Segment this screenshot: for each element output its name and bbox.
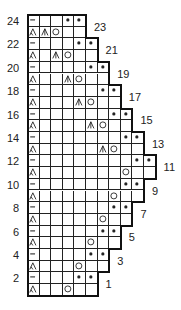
chart-cell: [28, 226, 40, 238]
left-decrease-symbol: [28, 261, 39, 272]
chart-outline: [131, 201, 145, 203]
yarn-over-symbol: [86, 97, 97, 108]
left-decrease-symbol: [28, 237, 39, 248]
chart-outline: [131, 131, 145, 133]
left-decrease-symbol: [28, 74, 39, 85]
chart-cell: [86, 155, 98, 167]
chart-cell: [63, 97, 75, 109]
dot-symbol: [86, 62, 97, 73]
chart-cell: [63, 62, 75, 74]
chart-cell: [40, 109, 52, 121]
chart-cell: [28, 38, 40, 50]
chart-cell: [51, 226, 63, 238]
chart-cell: [86, 249, 98, 261]
chart-cell: [28, 179, 40, 191]
chart-cell: [63, 15, 75, 27]
chart-cell: [63, 144, 75, 156]
chart-cell: [51, 74, 63, 86]
chart-cell: [74, 38, 86, 50]
dash-symbol: [28, 179, 39, 190]
chart-cell: [86, 214, 98, 226]
left-decrease-symbol: [28, 120, 39, 131]
chart-cell: [63, 226, 75, 238]
row-number-label: 16: [7, 110, 19, 121]
row-number-label: 22: [7, 39, 19, 50]
dot-symbol: [98, 62, 109, 73]
center-decrease-symbol: [51, 50, 62, 61]
chart-outline: [97, 61, 111, 63]
chart-cell: [51, 249, 63, 261]
chart-cell: [63, 249, 75, 261]
chart-cell: [74, 237, 86, 249]
chart-cell: [51, 202, 63, 214]
chart-outline: [120, 108, 134, 110]
chart-cell: [51, 38, 63, 50]
chart-cell: [40, 179, 52, 191]
chart-cell: [40, 27, 52, 39]
yarn-over-symbol: [51, 27, 62, 38]
center-decrease-symbol: [40, 27, 51, 38]
chart-cell: [86, 62, 98, 74]
chart-cell: [40, 144, 52, 156]
chart-cell: [28, 50, 40, 62]
chart-cell: [74, 50, 86, 62]
chart-cell: [40, 62, 52, 74]
chart-cell: [40, 15, 52, 27]
dash-symbol: [28, 249, 39, 260]
chart-cell: [74, 74, 86, 86]
chart-cell: [51, 132, 63, 144]
chart-cell: [63, 120, 75, 132]
chart-cell: [63, 38, 75, 50]
chart-cell: [63, 50, 75, 62]
chart-cell: [63, 272, 75, 284]
chart-cell: [98, 179, 110, 191]
chart-cell: [98, 109, 110, 121]
chart-cell: [28, 144, 40, 156]
chart-cell: [51, 27, 63, 39]
chart-cell: [109, 155, 121, 167]
left-decrease-symbol: [28, 191, 39, 202]
dot-symbol: [63, 15, 74, 26]
row-number-label: 3: [117, 256, 123, 267]
chart-cell: [51, 272, 63, 284]
chart-outline: [97, 271, 111, 273]
chart-cell: [86, 109, 98, 121]
row-number-label: 8: [13, 203, 19, 214]
chart-cell: [28, 27, 40, 39]
chart-cell: [109, 167, 121, 179]
dash-symbol: [28, 272, 39, 283]
chart-cell: [63, 261, 75, 273]
dot-symbol: [121, 179, 132, 190]
row-number-label: 1: [106, 279, 112, 290]
chart-cell: [51, 214, 63, 226]
chart-cell: [121, 179, 133, 191]
chart-cell: [51, 97, 63, 109]
chart-cell: [74, 155, 86, 167]
chart-cell: [74, 85, 86, 97]
yarn-over-symbol: [74, 74, 85, 85]
chart-cell: [86, 226, 98, 238]
chart-outline: [27, 14, 29, 297]
chart-cell: [74, 261, 86, 273]
yarn-over-symbol: [98, 120, 109, 131]
chart-cell: [74, 167, 86, 179]
dash-symbol: [28, 85, 39, 96]
chart-cell: [51, 144, 63, 156]
dot-symbol: [121, 132, 132, 143]
chart-cell: [74, 226, 86, 238]
chart-cell: [40, 191, 52, 203]
dash-symbol: [28, 15, 39, 26]
chart-cell: [74, 202, 86, 214]
dash-symbol: [28, 109, 39, 120]
chart-cell: [98, 202, 110, 214]
chart-cell: [40, 261, 52, 273]
dot-symbol: [86, 249, 97, 260]
chart-outline: [27, 14, 87, 16]
dot-symbol: [121, 109, 132, 120]
dot-symbol: [132, 155, 143, 166]
chart-cell: [109, 120, 121, 132]
chart-cell: [51, 261, 63, 273]
dot-symbol: [121, 202, 132, 213]
chart-cell: [74, 109, 86, 121]
chart-cell: [28, 249, 40, 261]
